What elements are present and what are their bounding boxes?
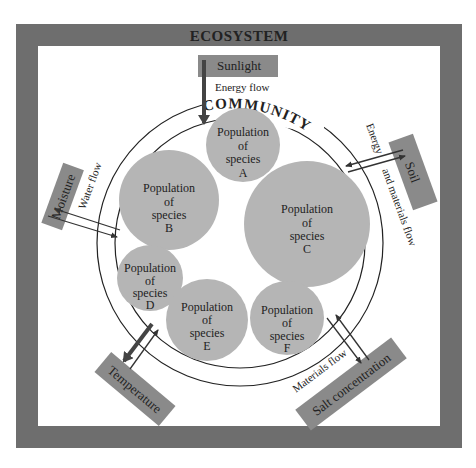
svg-text:of: of (238, 139, 248, 153)
salt-concentration-box: Salt concentration (295, 338, 406, 431)
water-flow-label: Water flow (76, 161, 104, 211)
svg-text:species: species (226, 152, 261, 166)
sunlight-label: Sunlight (217, 58, 261, 73)
svg-text:Population: Population (281, 202, 333, 216)
ecosystem-title: ECOSYSTEM (190, 28, 289, 44)
svg-text:of: of (164, 195, 174, 209)
svg-text:Population: Population (261, 303, 313, 317)
svg-text:Population: Population (217, 125, 269, 139)
svg-text:species: species (290, 229, 325, 243)
svg-text:A: A (239, 166, 248, 180)
svg-text:of: of (202, 313, 212, 327)
svg-text:D: D (146, 298, 155, 312)
ecosystem-diagram: ECOSYSTEM COMMUNITY Population of specie… (0, 0, 476, 468)
svg-text:Population: Population (181, 300, 233, 314)
svg-text:species: species (152, 208, 187, 222)
population-c: Population of species C (244, 161, 370, 287)
svg-text:B: B (165, 221, 173, 235)
svg-text:E: E (203, 339, 210, 353)
svg-text:C: C (303, 242, 311, 256)
svg-text:species: species (190, 326, 225, 340)
svg-text:F: F (284, 341, 291, 355)
energy-materials-label-1: Energy (364, 122, 386, 156)
population-b: Population of species B (119, 150, 219, 250)
svg-text:Population: Population (124, 261, 176, 275)
population-a: Population of species A (206, 108, 280, 182)
temperature-out-arrow (124, 324, 152, 361)
population-e: Population of species E (166, 279, 248, 361)
energy-flow-label: Energy flow (215, 81, 270, 93)
population-f: Population of species F (250, 281, 324, 355)
svg-text:of: of (302, 216, 312, 230)
svg-text:Population: Population (143, 181, 195, 195)
svg-text:of: of (282, 316, 292, 330)
